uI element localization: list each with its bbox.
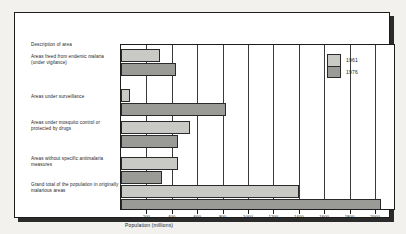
row-label-areas-under-surveillance: Areas under surveillance (31, 94, 119, 100)
gridline (299, 45, 300, 209)
legend: 1961 1976 (327, 54, 383, 78)
legend-swatch-1961-icon (327, 54, 341, 66)
row-label-mosquito-control: Areas under mosquito control or protecte… (31, 120, 119, 132)
axis-tick-label: 1800 (345, 214, 355, 219)
axis-tick-label: 600 (194, 214, 201, 219)
bar-1961-cat2 (121, 121, 190, 134)
axis-tick-label: 1400 (294, 214, 304, 219)
legend-label-1961: 1961 (346, 57, 358, 63)
bar-1976-cat4 (121, 199, 381, 209)
axis-tick-label: 200 (143, 214, 150, 219)
bar-1976-cat1 (121, 103, 226, 116)
x-axis: 200400600800100012001400160018002000 (120, 210, 395, 216)
legend-label-1976: 1976 (346, 69, 358, 75)
legend-item-1976: 1976 (327, 66, 383, 78)
row-label-without-specific-measures: Areas without specific antimalaria measu… (31, 156, 119, 168)
axis-tick-label: 2000 (370, 214, 380, 219)
bar-1961-cat0 (121, 49, 160, 62)
axis-tick-label: 400 (168, 214, 175, 219)
legend-swatch-1976-icon (327, 66, 341, 78)
bar-1976-cat2 (121, 135, 178, 148)
bar-1961-cat3 (121, 157, 178, 170)
column-header-label: Description of area (31, 42, 119, 48)
bar-1961-cat1 (121, 89, 130, 102)
row-label-freed-from-endemic-malaria: Areas freed from endemic malaria (under … (31, 54, 119, 66)
axis-tick-label: 1600 (319, 214, 329, 219)
axis-tick-label: 1200 (268, 214, 278, 219)
bar-1976-cat3 (121, 171, 162, 184)
legend-item-1961: 1961 (327, 54, 383, 66)
gridline (324, 45, 325, 209)
chart-card: Description of area Areas freed from end… (14, 12, 390, 218)
row-label-grand-total: Grand total of the population in origina… (31, 182, 119, 194)
bar-1976-cat0 (121, 63, 176, 76)
chart-screenshot: Description of area Areas freed from end… (0, 0, 406, 234)
x-axis-title: Population (millions) (125, 222, 173, 228)
axis-tick-label: 1000 (243, 214, 253, 219)
bar-1961-cat4 (121, 185, 299, 198)
axis-tick-label: 800 (219, 214, 226, 219)
